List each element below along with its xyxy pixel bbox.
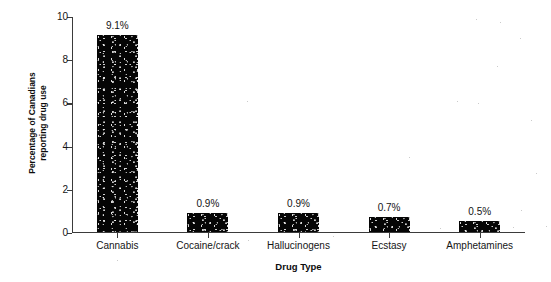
x-axis-tick-mark	[117, 233, 118, 238]
x-axis-category-label: Hallucinogens	[267, 239, 330, 252]
bar: 0.9%	[187, 213, 228, 232]
scan-speck	[546, 226, 547, 227]
x-axis-category-label: Amphetamines	[446, 239, 513, 252]
scan-speck	[497, 66, 498, 67]
scan-speck	[476, 19, 477, 20]
bar-value-label: 0.7%	[378, 202, 401, 214]
y-axis-line	[72, 17, 73, 233]
x-axis-title: Drug Type	[72, 261, 525, 272]
y-axis-tick-label: 10	[57, 10, 68, 23]
bar-value-label: 0.9%	[196, 198, 219, 210]
x-axis-tick-mark	[480, 233, 481, 238]
scan-speck	[440, 228, 441, 229]
y-axis-tick-label: 6	[62, 96, 68, 109]
scan-speck	[247, 101, 248, 102]
scan-speck	[521, 210, 522, 211]
x-axis-tick-mark	[299, 233, 300, 238]
scan-speck	[457, 101, 458, 102]
y-axis-tick-label: 0	[62, 226, 68, 239]
y-axis-tick-label: 8	[62, 53, 68, 66]
scan-speck	[248, 240, 249, 241]
y-axis-tick-label: 4	[62, 140, 68, 153]
x-axis-tick-mark	[389, 233, 390, 238]
x-axis-category-label: Cannabis	[96, 239, 138, 252]
x-axis-category-label: Cocaine/crack	[176, 239, 239, 252]
bar-chart: Percentage of Canadians reporting drug u…	[0, 0, 551, 282]
scan-speck	[409, 157, 410, 158]
scan-speck	[500, 22, 501, 23]
bar: 0.7%	[369, 217, 410, 232]
y-axis-tick-label: 2	[62, 183, 68, 196]
scan-speck	[536, 173, 537, 174]
x-axis-tick-mark	[208, 233, 209, 238]
bar: 9.1%	[97, 35, 138, 232]
scan-speck	[117, 260, 118, 261]
x-axis-category-label: Ecstasy	[372, 239, 407, 252]
bar-value-label: 9.1%	[106, 20, 129, 32]
scan-speck	[520, 38, 521, 39]
bar-value-label: 0.9%	[287, 198, 310, 210]
scan-speck	[305, 231, 306, 232]
bar: 0.5%	[459, 221, 500, 232]
plot-area: 0246810 9.1%0.9%0.9%0.7%0.5% CannabisCoc…	[72, 17, 525, 233]
scan-speck	[478, 103, 479, 104]
scan-speck	[513, 227, 514, 228]
bar: 0.9%	[278, 213, 319, 232]
bar-value-label: 0.5%	[468, 206, 491, 218]
scan-speck	[531, 120, 532, 121]
y-axis-title: Percentage of Canadians reporting drug u…	[27, 23, 49, 223]
scan-speck	[333, 236, 334, 237]
